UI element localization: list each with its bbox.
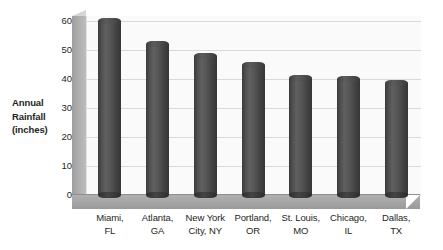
y-tick-label-10: 10: [50, 161, 72, 171]
floor-right-bevel: [406, 195, 420, 209]
x-axis-label-line-2: TX: [372, 225, 420, 238]
bar-bottom-cap: [146, 192, 169, 198]
y-tick-label-40: 40: [50, 74, 72, 84]
bar-top-cap: [289, 75, 312, 81]
x-axis-label-line-2: MO: [277, 225, 325, 238]
y-tick-label-30: 30: [50, 103, 72, 113]
bar-top-cap: [98, 18, 121, 24]
x-axis-label: Atlanta,GA: [134, 212, 182, 237]
x-axis-label: Dallas,TX: [372, 212, 420, 237]
bar-bottom-cap: [337, 192, 360, 198]
y-tick-label-50: 50: [50, 45, 72, 55]
x-axis-label-line-2: IL: [325, 225, 373, 238]
x-axis-label: New YorkCity, NY: [181, 212, 229, 237]
x-axis-label: Chicago,IL: [325, 212, 373, 237]
bar-top-cap: [242, 62, 265, 68]
y-tick-label-60: 60: [50, 16, 72, 26]
x-axis-label-line-1: New York: [181, 212, 229, 225]
bar: [194, 56, 217, 195]
x-axis-label-line-1: Atlanta,: [134, 212, 182, 225]
bar-top-cap: [146, 41, 169, 47]
bar-top-cap: [385, 80, 408, 86]
bar-top-cap: [337, 76, 360, 82]
bar-bottom-cap: [385, 192, 408, 198]
x-axis-label-line-1: Miami,: [86, 212, 134, 225]
bar: [337, 79, 360, 195]
x-axis-label-line-2: City, NY: [181, 225, 229, 238]
gridline-60: [87, 21, 421, 22]
bar-top-cap: [194, 53, 217, 59]
x-axis-label-line-1: St. Louis,: [277, 212, 325, 225]
bar-chart: Annual Rainfall (inches) 0102030405060 M…: [0, 0, 443, 250]
bar-bottom-cap: [289, 192, 312, 198]
bar: [146, 44, 169, 195]
x-axis-label-line-1: Dallas,: [372, 212, 420, 225]
x-axis-label-line-2: GA: [134, 225, 182, 238]
x-axis-label: Miami,FL: [86, 212, 134, 237]
x-axis-label-line-2: FL: [86, 225, 134, 238]
x-axis-label-line-1: Portland,: [229, 212, 277, 225]
y-tick-label-0: 0: [50, 190, 72, 200]
x-axis-label: Portland,OR: [229, 212, 277, 237]
y-axis-tick-labels: 0102030405060: [48, 0, 72, 250]
chart-side-wall: [72, 16, 86, 195]
x-axis-label-line-1: Chicago,: [325, 212, 373, 225]
bar: [98, 21, 121, 195]
bar-bottom-cap: [194, 192, 217, 198]
y-tick-label-20: 20: [50, 132, 72, 142]
x-axis-label-line-2: OR: [229, 225, 277, 238]
x-axis-label: St. Louis,MO: [277, 212, 325, 237]
bar-bottom-cap: [242, 192, 265, 198]
bar: [289, 78, 312, 195]
gridline-50: [87, 50, 421, 51]
bar-bottom-cap: [98, 192, 121, 198]
bar: [385, 83, 408, 195]
bar: [242, 65, 265, 196]
